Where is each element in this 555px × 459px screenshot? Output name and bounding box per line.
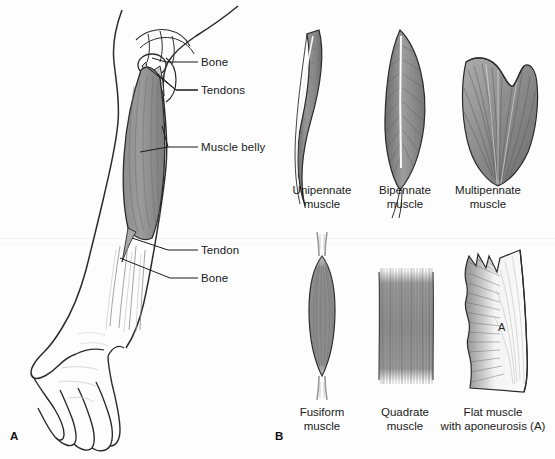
figure-root: Bone Tendons Muscle belly Tendon Bone A … xyxy=(0,0,555,459)
unipennate-muscle-shape xyxy=(288,30,322,206)
caption-line-2: muscle xyxy=(293,198,352,212)
caption-bipennate: Bipennate muscle xyxy=(379,184,431,211)
panel-letter-a: A xyxy=(10,430,18,442)
scan-artifact xyxy=(0,238,555,239)
caption-line-2: muscle xyxy=(379,198,431,212)
fusiform-muscle-shape xyxy=(309,232,335,400)
caption-line-1: Fusiform xyxy=(300,406,345,418)
panel-a-arm-illustration xyxy=(31,6,238,451)
flat-muscle-shape xyxy=(465,250,527,392)
caption-quadrate: Quadrate muscle xyxy=(381,406,429,433)
caption-flat-muscle: Flat muscle with aponeurosis (A) xyxy=(441,406,546,433)
panel-a-leader-lines xyxy=(120,58,198,278)
caption-line-2: with aponeurosis (A) xyxy=(441,420,546,434)
caption-multipennate: Multipennate muscle xyxy=(455,184,521,211)
caption-unipennate: Unipennate muscle xyxy=(293,184,352,211)
caption-line-1: Unipennate xyxy=(293,184,352,196)
caption-line-1: Bipennate xyxy=(379,184,431,196)
panel-letter-b: B xyxy=(275,430,283,442)
caption-line-1: Quadrate xyxy=(381,406,429,418)
scan-artifact xyxy=(0,244,555,245)
label-bone-lower: Bone xyxy=(201,272,228,285)
label-tendons: Tendons xyxy=(201,84,245,97)
label-tendon-lower: Tendon xyxy=(201,244,239,257)
multipennate-muscle-shape xyxy=(462,58,538,186)
caption-line-2: muscle xyxy=(455,198,521,212)
caption-fusiform: Fusiform muscle xyxy=(300,406,345,433)
caption-line-1: Flat muscle xyxy=(464,406,523,418)
figure-artwork xyxy=(0,0,555,459)
caption-line-2: muscle xyxy=(300,420,345,434)
quadrate-muscle-shape xyxy=(379,266,433,386)
label-bone-upper: Bone xyxy=(201,56,228,69)
aponeurosis-marker: A xyxy=(498,321,505,333)
caption-line-1: Multipennate xyxy=(455,184,521,196)
caption-line-2: muscle xyxy=(381,420,429,434)
label-muscle-belly: Muscle belly xyxy=(201,141,265,154)
